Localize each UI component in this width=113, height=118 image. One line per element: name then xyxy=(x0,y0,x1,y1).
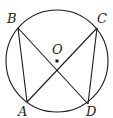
segment-cd xyxy=(88,28,97,104)
circle-diagram: B C O A D xyxy=(0,0,113,118)
segment-bd xyxy=(18,28,88,104)
label-o: O xyxy=(52,42,63,57)
label-d: D xyxy=(85,104,97,118)
segment-ba xyxy=(18,28,27,102)
center-point-o xyxy=(56,60,59,63)
segment-ca xyxy=(27,28,97,102)
label-c: C xyxy=(97,11,107,26)
label-a: A xyxy=(17,104,27,118)
label-b: B xyxy=(6,11,17,26)
